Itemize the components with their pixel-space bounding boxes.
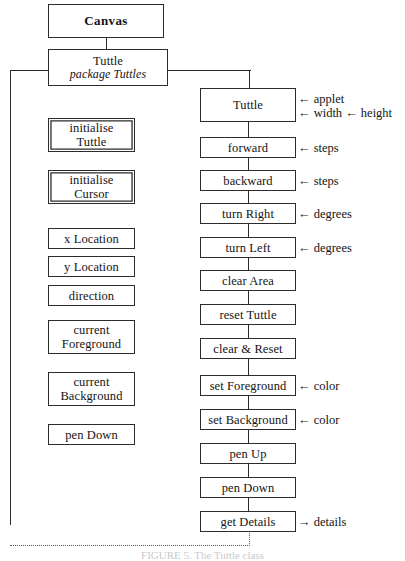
- method-param-label: ← steps: [298, 175, 339, 188]
- connector-method-spine: [248, 464, 249, 477]
- method-param-label: ← degrees: [298, 242, 352, 255]
- method-param-label: ← steps: [298, 142, 339, 155]
- attribute-box-direction[interactable]: direction: [48, 285, 135, 306]
- method-param-label: ← degrees: [298, 208, 352, 221]
- attribute-label-line1: initialise: [69, 173, 113, 187]
- connector-left-branch-vertical: [10, 70, 11, 525]
- method-param-label: ← color: [298, 380, 339, 393]
- node-tuttle-class[interactable]: Tuttle package Tuttles: [48, 49, 168, 86]
- connector-left-branch-horizontal: [10, 70, 49, 71]
- connector-method-spine: [248, 122, 249, 137]
- attribute-box-initialise-cursor[interactable]: initialiseCursor: [48, 170, 135, 204]
- method-label: forward: [228, 141, 268, 155]
- attribute-label-line1: x Location: [64, 232, 119, 246]
- connector-right-branch-horizontal: [167, 70, 251, 71]
- node-tuttle-class-package: package Tuttles: [70, 68, 147, 81]
- method-label: reset Tuttle: [219, 308, 276, 322]
- attribute-label-line2: Cursor: [74, 187, 109, 201]
- connector-right-branch-vertical: [249, 70, 250, 88]
- method-label: turn Right: [222, 207, 274, 221]
- attribute-box-current-foreground[interactable]: currentForeground: [48, 320, 135, 354]
- connector-method-spine: [248, 498, 249, 511]
- method-box-pen-down[interactable]: pen Down: [200, 477, 296, 498]
- attribute-box-initialise-tuttle[interactable]: initialiseTuttle: [48, 118, 135, 152]
- connector-method-spine: [248, 224, 249, 237]
- attribute-label-line2: Background: [60, 389, 122, 403]
- attribute-label-line1: initialise: [69, 121, 113, 135]
- connector-method-spine: [248, 258, 249, 270]
- method-box-set-background[interactable]: set Background: [200, 409, 296, 430]
- return-path-horizontal-dotted: [10, 545, 250, 546]
- connector-method-spine: [248, 325, 249, 338]
- connector-method-spine: [248, 359, 249, 375]
- attribute-label-line2: Foreground: [62, 337, 121, 351]
- method-box-turn-left[interactable]: turn Left: [200, 237, 296, 258]
- method-box-reset-tuttle[interactable]: reset Tuttle: [200, 304, 296, 325]
- connector-method-spine: [248, 430, 249, 443]
- connector-method-spine: [248, 291, 249, 304]
- node-tuttle-class-label: Tuttle: [93, 54, 123, 68]
- method-label: pen Up: [229, 447, 266, 461]
- method-param-label: ← width ← height: [298, 107, 392, 120]
- method-label: clear & Reset: [213, 342, 282, 356]
- attribute-box-current-background[interactable]: currentBackground: [48, 372, 135, 406]
- connector-method-spine: [248, 158, 249, 170]
- method-label: set Foreground: [210, 379, 287, 393]
- method-box-get-details[interactable]: get Details: [200, 511, 296, 532]
- method-param-label: ← applet: [298, 93, 344, 106]
- method-box-forward[interactable]: forward: [200, 137, 296, 158]
- attribute-box-pen-down[interactable]: pen Down: [48, 424, 135, 445]
- method-box-tuttle[interactable]: Tuttle: [200, 88, 296, 122]
- method-label: backward: [223, 174, 272, 188]
- connector-method-spine: [248, 191, 249, 203]
- attribute-label-line1: current: [73, 323, 109, 337]
- method-label: Tuttle: [233, 98, 263, 112]
- connector-method-spine: [248, 396, 249, 409]
- attribute-label-line2: Tuttle: [76, 135, 106, 149]
- attribute-label-line1: current: [73, 375, 109, 389]
- method-param-label: → details: [298, 516, 346, 529]
- figure-caption: FIGURE 5. The Tuttle class: [0, 549, 405, 561]
- attribute-box-y-location[interactable]: y Location: [48, 256, 135, 277]
- method-box-clear-area[interactable]: clear Area: [200, 270, 296, 291]
- method-box-turn-right[interactable]: turn Right: [200, 203, 296, 224]
- node-canvas[interactable]: Canvas: [48, 4, 164, 38]
- method-box-backward[interactable]: backward: [200, 170, 296, 191]
- method-label: turn Left: [226, 241, 271, 255]
- method-param-label: ← color: [298, 414, 339, 427]
- method-label: pen Down: [222, 481, 275, 495]
- method-label: set Background: [208, 413, 288, 427]
- node-canvas-label: Canvas: [84, 14, 128, 29]
- method-box-clear-reset[interactable]: clear & Reset: [200, 338, 296, 359]
- attribute-label-line1: direction: [69, 289, 114, 303]
- attribute-label-line1: pen Down: [65, 428, 118, 442]
- method-box-pen-up[interactable]: pen Up: [200, 443, 296, 464]
- method-label: get Details: [221, 515, 276, 529]
- attribute-box-x-location[interactable]: x Location: [48, 228, 135, 249]
- attribute-label-line1: y Location: [64, 260, 119, 274]
- method-label: clear Area: [222, 274, 274, 288]
- method-box-set-foreground[interactable]: set Foreground: [200, 375, 296, 396]
